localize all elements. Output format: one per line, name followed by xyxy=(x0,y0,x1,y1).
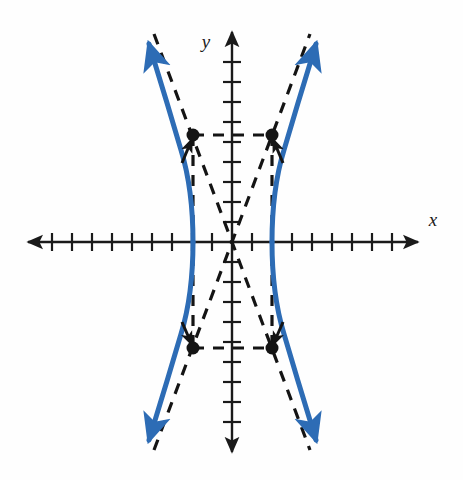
corner-top-left xyxy=(187,129,200,142)
x-axis-label: x xyxy=(428,209,438,230)
figure-canvas: y x xyxy=(0,0,463,480)
corner-top-right xyxy=(266,129,279,142)
hyperbola-left-branch-lower xyxy=(149,242,193,440)
hyperbola-plot: y x xyxy=(0,0,463,480)
y-axis-label: y xyxy=(200,31,211,52)
axes-group xyxy=(28,32,418,452)
corner-bottom-right xyxy=(266,342,279,355)
corner-bottom-left xyxy=(187,342,200,355)
hyperbola-left-branch-upper xyxy=(149,44,193,242)
